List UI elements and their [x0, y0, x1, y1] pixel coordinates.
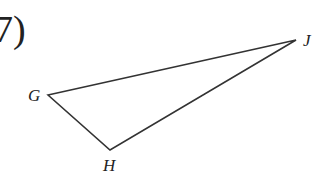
triangle-ghj — [48, 40, 296, 150]
vertex-label-g: G — [28, 86, 40, 105]
vertex-label-j: J — [303, 31, 312, 50]
vertex-label-h: H — [102, 156, 117, 175]
triangle-figure: G J H — [0, 0, 325, 179]
